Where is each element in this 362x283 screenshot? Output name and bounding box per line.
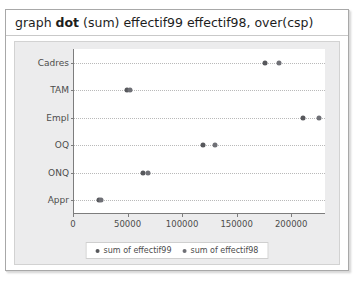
data-point xyxy=(200,143,205,148)
graph-window: graph dot (sum) effectif99 effectif98, o… xyxy=(5,9,349,271)
gridline xyxy=(74,63,325,65)
x-axis-label: 150000 xyxy=(220,219,252,229)
legend-item[interactable]: sum of effectif99 xyxy=(96,246,172,255)
category-row: Cadres xyxy=(74,63,325,64)
graph-panel: CadresTAMEmplOQONQAppr 05000010000015000… xyxy=(14,41,340,265)
x-axis-label: 200000 xyxy=(275,219,307,229)
data-point xyxy=(99,198,104,203)
y-axis-tick xyxy=(71,118,74,119)
gridline xyxy=(74,118,325,120)
x-axis: 050000100000150000200000 xyxy=(73,214,325,238)
data-point xyxy=(301,115,306,120)
y-axis-label-appr: Appr xyxy=(48,195,69,205)
x-axis-tick xyxy=(128,214,129,217)
y-axis-tick xyxy=(71,173,74,174)
y-axis-tick xyxy=(71,63,74,64)
gridline xyxy=(74,173,325,175)
legend-item[interactable]: sum of effectif98 xyxy=(183,246,259,255)
data-point xyxy=(212,143,217,148)
plot-rectangle: CadresTAMEmplOQONQAppr xyxy=(73,49,325,214)
y-axis-label-onq: ONQ xyxy=(48,168,69,178)
data-point xyxy=(140,170,145,175)
command-suffix: (sum) effectif99 effectif98, over(csp) xyxy=(79,15,313,30)
x-axis-tick xyxy=(73,214,74,217)
plot-area: CadresTAMEmplOQONQAppr 05000010000015000… xyxy=(6,36,348,270)
legend-label: sum of effectif99 xyxy=(104,246,172,255)
chart-legend: sum of effectif99sum of effectif98 xyxy=(86,242,269,259)
category-row: Empl xyxy=(74,118,325,119)
y-axis-tick xyxy=(71,90,74,91)
x-axis-label: 0 xyxy=(70,219,75,229)
category-row: OQ xyxy=(74,145,325,146)
data-point xyxy=(262,60,267,65)
y-axis-label-tam: TAM xyxy=(50,85,69,95)
legend-marker-icon xyxy=(96,249,100,253)
data-point xyxy=(127,88,132,93)
legend-label: sum of effectif98 xyxy=(191,246,259,255)
category-row: ONQ xyxy=(74,173,325,174)
command-prefix: graph xyxy=(15,15,56,30)
command-keyword-dot: dot xyxy=(56,15,80,30)
x-axis-tick xyxy=(237,214,238,217)
y-axis-tick xyxy=(71,145,74,146)
command-bar: graph dot (sum) effectif99 effectif98, o… xyxy=(6,10,348,36)
x-axis-tick xyxy=(182,214,183,217)
y-axis-label-empl: Empl xyxy=(46,113,69,123)
y-axis-tick xyxy=(71,200,74,201)
gridline xyxy=(74,200,325,202)
legend-marker-icon xyxy=(183,249,187,253)
category-row: Appr xyxy=(74,200,325,201)
data-point xyxy=(317,115,322,120)
x-axis-label: 100000 xyxy=(166,219,198,229)
y-axis-label-cadres: Cadres xyxy=(38,58,69,68)
data-point xyxy=(146,170,151,175)
data-point xyxy=(277,60,282,65)
x-axis-label: 50000 xyxy=(114,219,141,229)
x-axis-tick xyxy=(291,214,292,217)
y-axis-label-oq: OQ xyxy=(55,140,69,150)
gridline xyxy=(74,90,325,92)
category-row: TAM xyxy=(74,90,325,91)
